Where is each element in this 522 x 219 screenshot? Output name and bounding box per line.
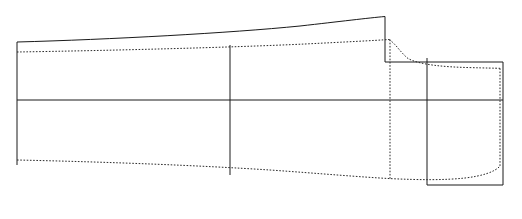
line-diagram — [0, 0, 522, 219]
diagram-background — [0, 0, 522, 219]
diagram-canvas — [0, 0, 522, 219]
